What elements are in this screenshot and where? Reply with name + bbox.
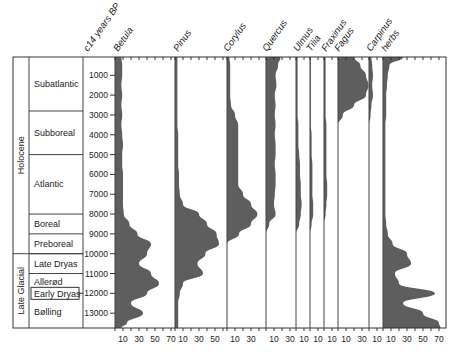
- zone-subboreal: Subboreal: [34, 128, 75, 138]
- curve-betula: [115, 57, 159, 328]
- curve-fagus: [338, 57, 368, 328]
- zone-bølling: Bølling: [34, 307, 62, 317]
- age-tick-label: 6000: [89, 169, 108, 179]
- pct-tick-label: 10: [386, 334, 396, 344]
- age-tick-label: 3000: [89, 110, 108, 120]
- age-tick-label: 1000: [89, 70, 108, 80]
- pct-tick-label: 10: [341, 334, 351, 344]
- pct-tick-label: 30: [246, 334, 256, 344]
- pct-tick-label: 30: [134, 334, 144, 344]
- period-late-glacial: Late Glacial: [16, 267, 26, 315]
- pct-tick-label: 10: [299, 334, 309, 344]
- pct-tick-label: 30: [402, 334, 412, 344]
- age-tick-label: 11000: [85, 269, 108, 279]
- pollen-diagram: 1000200030004000500060007000800090001000…: [0, 0, 458, 357]
- age-tick-label: 4000: [89, 130, 108, 140]
- zone-preboreal: Preboreal: [34, 239, 73, 249]
- zone-allerød: Allerød: [34, 277, 63, 287]
- pollen-curves: [115, 57, 441, 328]
- zone-late-dryas: Late Dryas: [34, 259, 78, 269]
- age-tick-label: 9000: [89, 229, 108, 239]
- pct-tick-label: 50: [210, 334, 220, 344]
- curve-ulmus: [296, 57, 302, 328]
- age-tick-label: 10000: [84, 249, 108, 259]
- pct-tick-label: 10: [327, 334, 337, 344]
- age-tick-label: 2000: [89, 90, 108, 100]
- zone-column: HoloceneLate GlacialSubatlanticSubboreal…: [13, 79, 83, 317]
- pct-tick-label: 10: [230, 334, 240, 344]
- zone-early-dryas: Early Dryas: [34, 289, 81, 299]
- zone-atlantic: Atlantic: [34, 179, 64, 189]
- pct-tick-label: 30: [194, 334, 204, 344]
- age-tick-label: 7000: [89, 189, 108, 199]
- taxon-headers: c14 years BPBetulaPinusCorylusQuercusUlm…: [81, 0, 402, 53]
- pct-tick-label: 10: [269, 334, 279, 344]
- age-tick-label: 8000: [89, 209, 108, 219]
- pct-tick-label: 30: [357, 334, 367, 344]
- curve-carpinus: [369, 57, 373, 328]
- taxon-corylus: Corylus: [221, 20, 249, 53]
- pct-tick-label: 70: [166, 334, 176, 344]
- taxon-quercus: Quercus: [260, 17, 290, 53]
- pct-tick-label: 50: [150, 334, 160, 344]
- pct-tick-label: 30: [285, 334, 295, 344]
- period-holocene: Holocene: [16, 136, 26, 174]
- pct-tick-label: 10: [118, 334, 128, 344]
- zone-subatlantic: Subatlantic: [34, 79, 79, 89]
- taxon-pinus: Pinus: [171, 27, 194, 53]
- pct-tick-label: 10: [313, 334, 323, 344]
- pct-tick-label: 10: [372, 334, 382, 344]
- age-axis: 1000200030004000500060007000800090001000…: [84, 70, 115, 318]
- age-tick-label: 5000: [89, 150, 108, 160]
- curve-corylus: [227, 57, 257, 328]
- zone-boreal: Boreal: [34, 219, 60, 229]
- age-tick-label: 12000: [84, 288, 108, 298]
- curve-pinus: [175, 57, 219, 328]
- curve-herbs: [383, 57, 441, 328]
- age-tick-label: 13000: [84, 308, 108, 318]
- taxon-betula: Betula: [111, 25, 135, 53]
- curve-quercus: [266, 57, 280, 328]
- pct-tick-label: 50: [418, 334, 428, 344]
- pct-tick-label: 10: [178, 334, 188, 344]
- pct-tick-label: 70: [434, 334, 444, 344]
